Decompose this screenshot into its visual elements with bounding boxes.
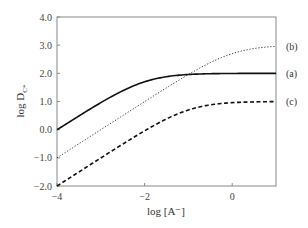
- y-axis-title: log DC*: [14, 84, 29, 117]
- y-tick-label: −1.0: [34, 152, 52, 163]
- series-label-b: (b): [286, 41, 298, 53]
- x-tick-label: 0: [230, 191, 235, 202]
- x-tick-label: −2: [139, 191, 150, 202]
- y-axis-title-main: log D: [14, 93, 26, 118]
- y-axis-ticks: −2.0−1.00.01.02.03.04.0: [34, 12, 60, 192]
- series-label-a: (a): [286, 68, 297, 80]
- y-tick-label: 4.0: [40, 12, 53, 23]
- y-tick-label: 2.0: [40, 68, 53, 79]
- y-tick-label: 1.0: [40, 96, 53, 107]
- y-tick-label: −2.0: [34, 181, 52, 192]
- curve-b: [57, 46, 276, 158]
- x-tick-label: −4: [52, 191, 63, 202]
- curve-a: [57, 73, 276, 129]
- y-tick-label: 3.0: [40, 40, 53, 51]
- svg-text:log DC*: log DC*: [14, 84, 29, 117]
- y-axis-title-sub: C*: [21, 84, 29, 93]
- y-tick-label: 0.0: [40, 124, 53, 135]
- curve-c: [57, 102, 276, 186]
- chart: −2.0−1.00.01.02.03.04.0 −4−20 log [A⁻] l…: [0, 0, 308, 228]
- curves: [57, 46, 276, 186]
- series-label-c: (c): [286, 96, 297, 108]
- x-axis-title: log [A⁻]: [147, 205, 185, 217]
- plot-frame: [57, 17, 276, 186]
